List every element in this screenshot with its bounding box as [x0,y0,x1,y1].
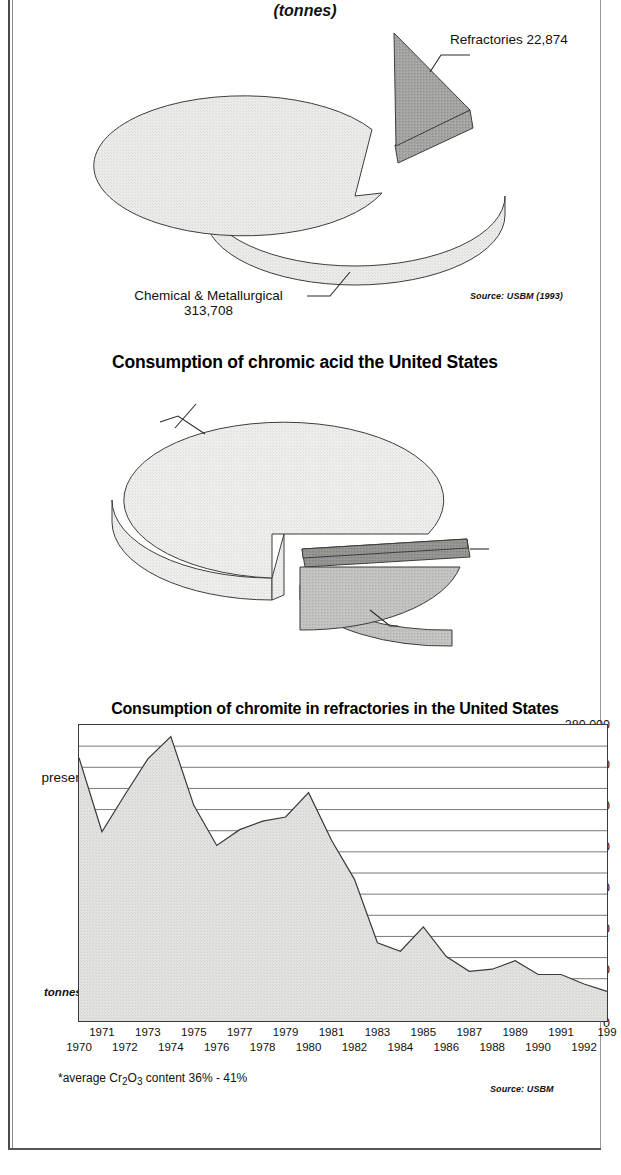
page-border-bottom [8,1148,601,1150]
chart2-pie-graphic [0,338,610,686]
chart-chromite-consumption-pie: (tonnes) [0,0,610,338]
chart2-title: Consumption of chromic acid the United S… [0,352,610,373]
chart3-xtick-1971: 1971 [82,1026,122,1038]
chart3-xtick-1984: 1984 [380,1041,420,1053]
chart3-xtick-1990: 1990 [518,1041,558,1053]
chart3-footnote-pre: *average Cr [58,1071,122,1085]
chart3-xtick-1985: 1985 [403,1026,443,1038]
chart3-xtick-199: 199 [587,1026,621,1038]
chart-chromite-refractories-area: Consumption of chromite in refractories … [0,686,610,1146]
chart3-source: Source: USBM [490,1084,554,1094]
chart3-axis-unit-label: tonnes [44,986,82,998]
chart3-xtick-1975: 1975 [174,1026,214,1038]
chart3-xtick-1977: 1977 [220,1026,260,1038]
chart1-label-chemical-line2: 313,708 [184,303,233,318]
chart3-xtick-1983: 1983 [357,1026,397,1038]
chart3-xtick-1978: 1978 [243,1041,283,1053]
chart3-xtick-1970: 1970 [59,1041,99,1053]
chart1-label-chemical-metallurgical: Chemical & Metallurgical 313,708 [106,288,311,318]
chart3-xtick-1992: 1992 [564,1041,604,1053]
chart3-xtick-1973: 1973 [128,1026,168,1038]
chart3-xtick-1987: 1987 [449,1026,489,1038]
chart1-label-chemical-line1: Chemical & Metallurgical [134,288,283,303]
chart3-xtick-1988: 1988 [472,1041,512,1053]
chart1-subtitle: (tonnes) [0,2,610,20]
chart3-xtick-1979: 1979 [266,1026,306,1038]
chart3-xtick-1980: 1980 [289,1041,329,1053]
chart3-xtick-1974: 1974 [151,1041,191,1053]
chart3-xtick-1986: 1986 [426,1041,466,1053]
chart1-source: Source: USBM (1993) [470,291,563,301]
chart3-xtick-1981: 1981 [312,1026,352,1038]
chart3-footnote-mid: O [128,1071,137,1085]
chart1-label-refractories: Refractories 22,874 [450,32,568,47]
chart3-xtick-1972: 1972 [105,1041,145,1053]
chart3-xtick-1991: 1991 [541,1026,581,1038]
chart3-footnote-post: content 36% - 41% [143,1071,248,1085]
chart3-xtick-1976: 1976 [197,1041,237,1053]
chart3-xtick-1982: 1982 [334,1041,374,1053]
chart-chromic-acid-pie: Consumption of chromic acid the United S… [0,338,610,686]
chart3-xtick-1989: 1989 [495,1026,535,1038]
chart3-plot-area [78,724,608,1044]
chart3-title: Consumption of chromite in refractories … [70,700,600,718]
chart3-footnote: *average Cr2O3 content 36% - 41% [58,1071,247,1087]
